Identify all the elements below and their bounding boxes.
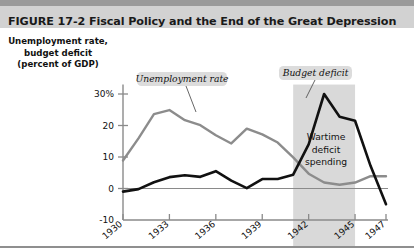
- y-tick-label: 0: [108, 184, 114, 194]
- wartime-note-line2: deficit: [312, 144, 341, 155]
- x-tick-label: 1936: [193, 219, 217, 242]
- figure-header-band: FIGURE 17-2 Fiscal Policy and the End of…: [0, 6, 414, 28]
- line-chart: 30%20100-101930193319361939194219451947 …: [0, 28, 414, 248]
- y-tick-label: 30%: [94, 89, 114, 99]
- plot-area: 30%20100-101930193319361939194219451947 …: [0, 28, 414, 248]
- unemployment-callout-label: Unemployment rate: [135, 73, 229, 84]
- wartime-note-line3: spending: [305, 156, 347, 167]
- y-tick-label: 20: [103, 121, 115, 131]
- y-tick-label: 10: [103, 152, 115, 162]
- budget-deficit-callout-label: Budget deficit: [282, 67, 349, 78]
- unemployment-callout-leader-line: [186, 86, 196, 112]
- x-tick-label: 1939: [240, 219, 264, 242]
- figure-title: FIGURE 17-2 Fiscal Policy and the End of…: [8, 15, 396, 28]
- x-tick-label: 1933: [147, 219, 171, 241]
- wartime-note-line1: Wartime: [307, 131, 346, 142]
- x-tick-label: 1947: [363, 219, 387, 241]
- figure-container: FIGURE 17-2 Fiscal Policy and the End of…: [0, 0, 414, 248]
